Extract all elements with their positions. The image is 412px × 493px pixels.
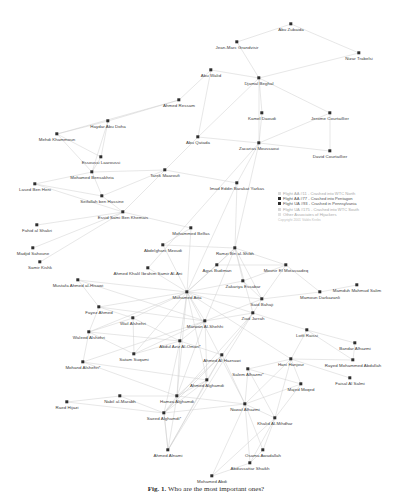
- graph-node-abu-qatada[interactable]: [196, 135, 199, 138]
- graph-node-label-mamoun-darkazanli: Mamoun Darkazanli: [300, 295, 340, 300]
- graph-node-mehdi-khammoun[interactable]: [55, 132, 58, 135]
- graph-node-waleed-alshehri[interactable]: [87, 330, 90, 333]
- graph-node-ahmed-alghamdi[interactable]: [205, 378, 208, 381]
- graph-node-abdul-aziz-al-omari[interactable]: [178, 339, 181, 342]
- graph-node-label-hamza-alghamdi: Hamza Alghamdi: [160, 399, 194, 404]
- graph-node-label-ahmed-alnami: Ahmed Alnami: [154, 453, 183, 458]
- graph-node-lased-ben-heni[interactable]: [33, 182, 36, 185]
- graph-edge: [198, 70, 211, 137]
- graph-node-label-jean-marc-grandvisir: Jean-Marc Grandvisir: [216, 45, 259, 50]
- graph-node-ahmed-ressam[interactable]: [177, 98, 180, 101]
- graph-node-label-ahmed-khalil-samir-al-ani: Ahmed Khalil Ibrahim Samir Al-Ani: [114, 271, 183, 276]
- graph-node-abdussattar-shaikh[interactable]: [248, 461, 251, 464]
- graph-node-salem-alhazmi[interactable]: [246, 367, 249, 370]
- graph-node-essoussi-laaroussi[interactable]: [99, 155, 102, 158]
- graph-node-label-osama-awadallah: Osama Awadallah: [245, 453, 281, 458]
- graph-node-bandar-alhazmi[interactable]: [353, 341, 356, 344]
- graph-node-saeed-alghamdi[interactable]: [162, 411, 165, 414]
- graph-node-lotfi-raissi[interactable]: [305, 328, 308, 331]
- graph-node-mohamed-bensakhria[interactable]: [90, 170, 93, 173]
- graph-node-label-abdussattar-shaikh: Abdussattar Shaikh: [231, 466, 270, 471]
- graph-node-agus-budiman[interactable]: [215, 263, 218, 266]
- graph-node-khalid-al-mihdhar[interactable]: [273, 416, 276, 419]
- caption-label: Fig. 1.: [148, 485, 166, 493]
- graph-node-mohand-alshehri[interactable]: [81, 360, 84, 363]
- graph-node-haydar-abu-doha[interactable]: [106, 119, 109, 122]
- graph-node-ahmed-al-haznawi[interactable]: [220, 353, 223, 356]
- graph-node-label-kamel-daoudi: Kamel Daoudi: [248, 116, 276, 121]
- graph-node-marwan-al-shehhi[interactable]: [203, 319, 206, 322]
- graph-edge: [57, 100, 179, 134]
- graph-node-label-rayed-mohammed-abdullah: Rayed Mohammed Abdullah: [325, 363, 381, 368]
- graph-node-said-bahaji[interactable]: [260, 297, 263, 300]
- graph-node-label-mustafa-ahmed-al-hisawi: Mustafa Ahmed al-Hisawi: [53, 283, 104, 288]
- graph-node-jerome-courtaillier[interactable]: [328, 111, 331, 114]
- legend-item: Other Associates of Hijackers: [278, 212, 390, 217]
- legend-swatch-icon: [278, 202, 281, 205]
- graph-node-hani-hanjour[interactable]: [289, 357, 292, 360]
- graph-node-label-imad-eddin-barakat: Imad Eddin Barakat Yarkas: [210, 186, 264, 191]
- graph-node-label-abu-zubaida: Abu Zubaida: [278, 27, 303, 32]
- graph-node-label-satam-suqami: Satam Suqami: [119, 357, 148, 362]
- graph-node-mounir-el-motassadeq[interactable]: [284, 263, 287, 266]
- caption-text: Who are the most important ones?: [168, 485, 264, 493]
- graph-node-djamal-beghal[interactable]: [257, 76, 260, 79]
- graph-node-zacarias-moussaoui[interactable]: [257, 141, 260, 144]
- graph-node-label-abdul-aziz-al-omari: Abdul Aziz Al-Omari*: [159, 344, 201, 349]
- graph-node-label-mohamed-abdi: Mohamed Abdi: [197, 479, 227, 484]
- figure-caption: Fig. 1. Who are the most important ones?: [0, 485, 412, 493]
- graph-node-abu-zubaida[interactable]: [289, 22, 292, 25]
- graph-edge: [187, 183, 237, 292]
- legend-swatch-icon: [278, 213, 281, 216]
- graph-node-mohammed-belfas[interactable]: [189, 226, 192, 229]
- legend-copyright-note: Copyright 2001 Valdis Krebs: [278, 218, 390, 222]
- graph-node-rayed-mohammed-abdullah[interactable]: [351, 358, 354, 361]
- graph-node-osama-awadallah[interactable]: [261, 448, 264, 451]
- graph-node-ahmed-alnami[interactable]: [166, 448, 169, 451]
- graph-node-wail-alshehri[interactable]: [131, 316, 134, 319]
- graph-edge: [83, 362, 207, 380]
- graph-node-essid-sami-ben-khemais[interactable]: [121, 210, 124, 213]
- graph-node-jean-marc-grandvisir[interactable]: [235, 40, 238, 43]
- graph-node-fahid-al-shakri[interactable]: [35, 223, 38, 226]
- graph-node-raed-hijazi[interactable]: [65, 400, 68, 403]
- graph-node-samir-kishk[interactable]: [38, 260, 41, 263]
- graph-node-ahmed-khalil-samir-al-ani[interactable]: [146, 266, 149, 269]
- graph-node-mamoun-darkazanli[interactable]: [318, 290, 321, 293]
- graph-node-nizar-trabelsi[interactable]: [357, 51, 360, 54]
- graph-node-mustafa-ahmed-al-hisawi[interactable]: [76, 278, 79, 281]
- graph-node-label-zacarias-moussaoui: Zacarias Moussaoui: [239, 146, 279, 151]
- graph-node-mohamed-abdi[interactable]: [210, 474, 213, 477]
- graph-node-tarek-maaroufi[interactable]: [163, 168, 166, 171]
- graph-node-faisal-al-salmi[interactable]: [348, 376, 351, 379]
- graph-node-abu-walid[interactable]: [209, 68, 212, 71]
- graph-node-label-mohamed-bensakhria: Mohamed Bensakhria: [70, 175, 114, 180]
- graph-edge: [187, 228, 191, 292]
- graph-node-zakariya-essabar[interactable]: [241, 279, 244, 282]
- graph-node-david-courtaillier[interactable]: [328, 149, 331, 152]
- graph-node-ramzi-bin-al-shibh[interactable]: [233, 246, 236, 249]
- graph-node-abdelghani-mzoudi[interactable]: [161, 243, 164, 246]
- graph-node-nabil-al-marabh[interactable]: [118, 394, 121, 397]
- graph-node-label-essoussi-laaroussi: Essoussi Laaroussi: [82, 160, 121, 165]
- graph-node-majed-moqed[interactable]: [299, 382, 302, 385]
- graph-node-label-seifallah-ben-hassine: Seifallah ben Hassine: [80, 199, 124, 204]
- graph-node-mamduh-mahmud-salim[interactable]: [355, 283, 358, 286]
- graph-node-label-samir-kishk: Samir Kishk: [28, 265, 52, 270]
- graph-node-label-tarek-maaroufi: Tarek Maaroufi: [150, 173, 180, 178]
- legend-swatch-icon: [278, 192, 281, 195]
- graph-node-imad-eddin-barakat[interactable]: [235, 181, 238, 184]
- graph-node-label-mounir-el-motassadeq: Mounir El Motassadeq: [264, 268, 309, 273]
- graph-node-seifallah-ben-hassine[interactable]: [100, 194, 103, 197]
- graph-node-kamel-daoudi[interactable]: [260, 111, 263, 114]
- graph-node-ziad-jarrah[interactable]: [251, 311, 254, 314]
- graph-edge: [291, 359, 353, 360]
- graph-node-label-nizar-trabelsi: Nizar Trabelsi: [345, 56, 373, 61]
- graph-node-mohamed-atta[interactable]: [185, 290, 188, 293]
- graph-node-madjid-sahoune[interactable]: [31, 246, 34, 249]
- graph-node-satam-suqami[interactable]: [132, 352, 135, 355]
- graph-node-nawaf-alhazmi[interactable]: [243, 402, 246, 405]
- graph-node-fayez-ahmed[interactable]: [97, 305, 100, 308]
- graph-node-label-ramzi-bin-al-shibh: Ramzi Bin al-Shibh: [216, 251, 254, 256]
- graph-node-hamza-alghamdi[interactable]: [175, 394, 178, 397]
